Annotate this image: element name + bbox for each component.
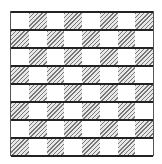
white-square — [29, 31, 47, 47]
white-square — [135, 67, 153, 83]
white-square — [135, 103, 153, 119]
white-square — [47, 121, 65, 137]
white-square — [118, 121, 136, 137]
white-square — [29, 67, 47, 83]
hatched-square — [82, 67, 100, 83]
hatched-square — [82, 139, 100, 155]
hatched-square — [11, 31, 29, 47]
board-row — [11, 137, 153, 155]
board-row — [11, 101, 153, 119]
hatched-square — [100, 49, 118, 65]
white-square — [82, 13, 100, 29]
hatched-square — [118, 67, 136, 83]
white-square — [11, 13, 29, 29]
hatched-square — [135, 49, 153, 65]
white-square — [11, 49, 29, 65]
white-square — [64, 31, 82, 47]
white-square — [82, 121, 100, 137]
white-square — [47, 49, 65, 65]
white-square — [64, 103, 82, 119]
board-row — [11, 47, 153, 65]
hatched-square — [135, 121, 153, 137]
white-square — [82, 49, 100, 65]
white-square — [118, 49, 136, 65]
white-square — [64, 139, 82, 155]
hatched-square — [82, 31, 100, 47]
hatched-square — [135, 85, 153, 101]
white-square — [100, 31, 118, 47]
white-square — [118, 13, 136, 29]
white-square — [82, 85, 100, 101]
white-square — [100, 67, 118, 83]
hatched-square — [100, 85, 118, 101]
hatched-square — [11, 103, 29, 119]
white-square — [135, 139, 153, 155]
hatched-square — [135, 13, 153, 29]
white-square — [29, 103, 47, 119]
hatched-square — [47, 139, 65, 155]
board-bottom-border — [11, 155, 153, 157]
hatched-square — [64, 85, 82, 101]
white-square — [135, 31, 153, 47]
hatched-square — [118, 139, 136, 155]
board-row — [11, 11, 153, 29]
hatched-square — [64, 13, 82, 29]
board-row — [11, 65, 153, 83]
hatched-square — [118, 103, 136, 119]
hatched-square — [11, 139, 29, 155]
board-row — [11, 119, 153, 137]
white-square — [11, 121, 29, 137]
white-square — [100, 103, 118, 119]
checkerboard — [10, 11, 154, 156]
white-square — [118, 85, 136, 101]
board-row — [11, 83, 153, 101]
white-square — [47, 13, 65, 29]
hatched-square — [64, 49, 82, 65]
white-square — [29, 139, 47, 155]
hatched-square — [29, 49, 47, 65]
hatched-square — [11, 67, 29, 83]
hatched-square — [64, 121, 82, 137]
hatched-square — [47, 103, 65, 119]
hatched-square — [118, 31, 136, 47]
white-square — [100, 139, 118, 155]
white-square — [11, 85, 29, 101]
hatched-square — [100, 121, 118, 137]
hatched-square — [29, 13, 47, 29]
white-square — [47, 85, 65, 101]
hatched-square — [47, 67, 65, 83]
hatched-square — [29, 85, 47, 101]
hatched-square — [29, 121, 47, 137]
hatched-square — [100, 13, 118, 29]
hatched-square — [47, 31, 65, 47]
board-row — [11, 29, 153, 47]
white-square — [64, 67, 82, 83]
hatched-square — [82, 103, 100, 119]
